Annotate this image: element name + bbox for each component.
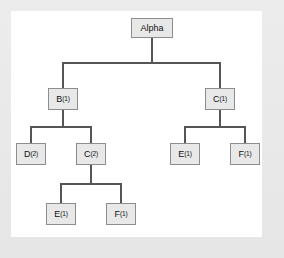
tree-node-subscript: (1): [219, 96, 227, 103]
tree-node-subscript: (1): [184, 151, 192, 158]
diagram-root: AlphaB(1)C(1)D(2)C(2)E(1)F(1)E(1)F(1): [0, 0, 284, 258]
tree-node-e1b[interactable]: E(1): [46, 203, 76, 225]
tree-node-subscript: (1): [60, 211, 68, 218]
tree-node-subscript: (1): [62, 96, 70, 103]
tree-node-label: Alpha: [140, 24, 163, 33]
tree-node-subscript: (1): [244, 151, 252, 158]
tree-node-f1b[interactable]: F(1): [106, 203, 136, 225]
tree-canvas: AlphaB(1)C(1)D(2)C(2)E(1)F(1)E(1)F(1): [11, 11, 262, 237]
tree-node-alpha[interactable]: Alpha: [131, 18, 173, 38]
tree-node-f1r[interactable]: F(1): [230, 143, 260, 165]
tree-node-subscript: (1): [120, 211, 128, 218]
tree-node-d2[interactable]: D(2): [16, 143, 46, 165]
tree-node-subscript: (2): [90, 151, 98, 158]
tree-node-b1[interactable]: B(1): [48, 88, 78, 110]
tree-node-e1r[interactable]: E(1): [170, 143, 200, 165]
tree-node-c2[interactable]: C(2): [76, 143, 106, 165]
diagram-panel: AlphaB(1)C(1)D(2)C(2)E(1)F(1)E(1)F(1): [11, 11, 262, 237]
tree-node-subscript: (2): [30, 151, 38, 158]
tree-node-c1[interactable]: C(1): [205, 88, 235, 110]
